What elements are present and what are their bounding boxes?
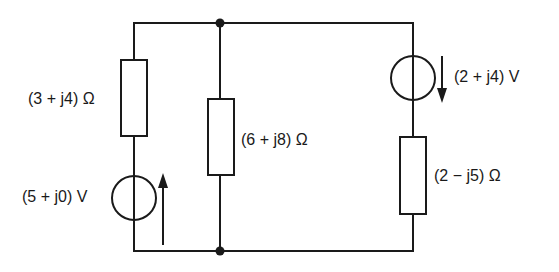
label-impedance-6-j8: (6 + j8) Ω [241, 132, 308, 148]
impedance-6-j8 [208, 99, 234, 175]
arrow-up-icon [158, 173, 168, 188]
junction-dot-bottom [216, 247, 225, 256]
label-impedance-3-j4: (3 + j4) Ω [28, 91, 95, 107]
junction-dot-top [216, 19, 225, 28]
circuit-diagram: (3 + j4) Ω (5 + j0) V (6 + j8) Ω (2 + j4… [0, 0, 559, 272]
label-voltage-5-j0: (5 + j0) V [22, 189, 87, 205]
label-voltage-2-j4: (2 + j4) V [454, 69, 519, 85]
label-impedance-2-minus-j5: (2 − j5) Ω [434, 168, 501, 184]
impedance-2-minus-j5 [400, 137, 426, 214]
impedance-3-j4 [121, 60, 147, 136]
arrow-down-icon [437, 88, 447, 103]
